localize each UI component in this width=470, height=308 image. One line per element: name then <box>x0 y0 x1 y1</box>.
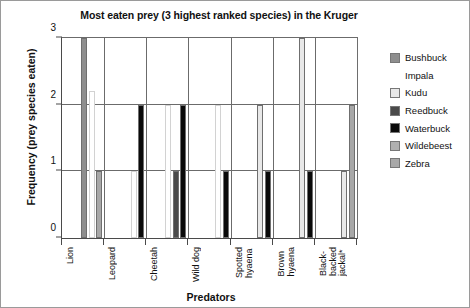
bar-group <box>62 38 104 238</box>
x-tick-mark <box>61 239 62 245</box>
legend-label: Impala <box>405 70 434 81</box>
legend-swatch-icon <box>390 141 400 151</box>
chart-figure: Most eaten prey (3 highest ranked specie… <box>0 0 470 308</box>
legend-item: Bushbuck <box>390 49 468 67</box>
bar <box>173 171 179 238</box>
bar-group <box>315 38 357 238</box>
x-tick-mark <box>314 239 315 245</box>
legend-item: Kudu <box>390 84 468 102</box>
legend-swatch-icon <box>390 158 400 168</box>
bar-group <box>188 38 230 238</box>
legend-swatch-icon <box>390 123 400 133</box>
legend-label: Kudu <box>405 87 427 98</box>
legend-item: Wildebeest <box>390 137 468 155</box>
bar <box>215 105 221 238</box>
legend-item: Zebra <box>390 155 468 173</box>
bar <box>265 171 271 238</box>
bar <box>299 38 305 238</box>
legend-item: Impala <box>390 67 468 85</box>
x-tick-mark <box>356 239 357 245</box>
x-axis-label: Predators <box>121 291 301 303</box>
legend-label: Bushbuck <box>405 52 447 63</box>
x-tick-mark <box>187 239 188 245</box>
bar-group <box>273 38 315 238</box>
bar <box>341 171 347 238</box>
legend-swatch-icon <box>390 106 400 116</box>
legend-swatch-icon <box>390 88 400 98</box>
legend-label: Wildebeest <box>405 140 452 151</box>
bar <box>165 105 171 238</box>
x-tick-mark <box>272 239 273 245</box>
plot-area: 0123 <box>61 37 358 239</box>
x-tick-mark <box>103 239 104 245</box>
bar <box>223 171 229 238</box>
legend-item: Reedbuck <box>390 102 468 120</box>
legend-label: Reedbuck <box>405 105 448 116</box>
x-tick-label: Black- backed jackal* <box>319 247 373 276</box>
legend-label: Waterbuck <box>405 123 450 134</box>
legend-swatch-icon <box>390 70 400 80</box>
bar <box>96 171 102 238</box>
legend-swatch-icon <box>390 53 400 63</box>
x-tick-mark <box>145 239 146 245</box>
bar <box>307 171 313 238</box>
legend: BushbuckImpalaKuduReedbuckWaterbuckWilde… <box>390 49 468 172</box>
y-tick-label: 1 <box>50 155 62 166</box>
bar <box>257 105 263 238</box>
bar <box>81 38 87 238</box>
y-axis-label: Frequency (prey species eaten) <box>25 27 37 227</box>
bar <box>349 105 355 238</box>
legend-label: Zebra <box>405 158 430 169</box>
bar <box>131 171 137 238</box>
y-tick-label: 2 <box>50 88 62 99</box>
legend-item: Waterbuck <box>390 119 468 137</box>
bar-group <box>231 38 273 238</box>
bar-group <box>104 38 146 238</box>
x-tick-mark <box>230 239 231 245</box>
bar-group <box>146 38 188 238</box>
chart-title: Most eaten prey (3 highest ranked specie… <box>59 9 379 21</box>
y-tick-label: 0 <box>50 222 62 233</box>
bar <box>180 105 186 238</box>
bar <box>89 91 95 238</box>
bar <box>138 105 144 238</box>
y-tick-label: 3 <box>50 22 62 33</box>
